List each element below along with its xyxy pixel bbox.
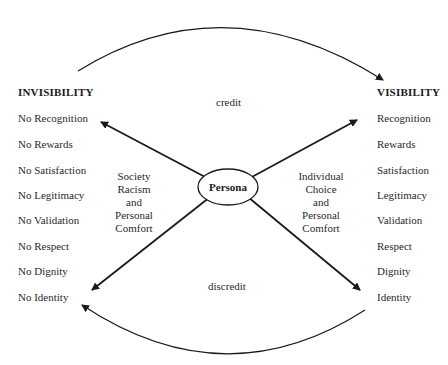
visibility-heading: VISIBILITY — [377, 86, 440, 99]
left-item: No Legitimacy — [18, 189, 84, 202]
left-factor: Society — [112, 170, 156, 183]
right-factor: Comfort — [296, 222, 346, 235]
left-factor: Comfort — [112, 222, 156, 235]
left-factor: Racism — [112, 183, 156, 196]
left-item: No Satisfaction — [18, 164, 86, 177]
persona-label: Persona — [197, 172, 259, 202]
credit-label: credit — [216, 96, 241, 109]
left-factor: Personal — [112, 209, 156, 222]
right-factor: Choice — [296, 183, 346, 196]
right-item: Identity — [377, 291, 411, 304]
invisibility-heading: INVISIBILITY — [18, 86, 94, 99]
credit-curve-arrow — [78, 28, 383, 80]
discredit-label: discredit — [208, 280, 246, 293]
left-item: No Validation — [18, 214, 79, 227]
right-item: Validation — [377, 214, 422, 227]
right-item: Legitimacy — [377, 189, 427, 202]
left-factor: and — [112, 196, 156, 209]
right-item: Respect — [377, 240, 412, 253]
right-item: Rewards — [377, 138, 416, 151]
left-item: No Rewards — [18, 138, 73, 151]
left-item: No Dignity — [18, 265, 68, 278]
right-item: Satisfaction — [377, 164, 429, 177]
left-item: No Identity — [18, 291, 68, 304]
right-item: Recognition — [377, 112, 431, 125]
right-factor: Personal — [296, 209, 346, 222]
right-item: Dignity — [377, 265, 411, 278]
right-factor: and — [296, 196, 346, 209]
discredit-curve-arrow — [82, 305, 365, 354]
left-item: No Respect — [18, 240, 69, 253]
left-item: No Recognition — [18, 112, 88, 125]
right-factor: Individual — [296, 170, 346, 183]
